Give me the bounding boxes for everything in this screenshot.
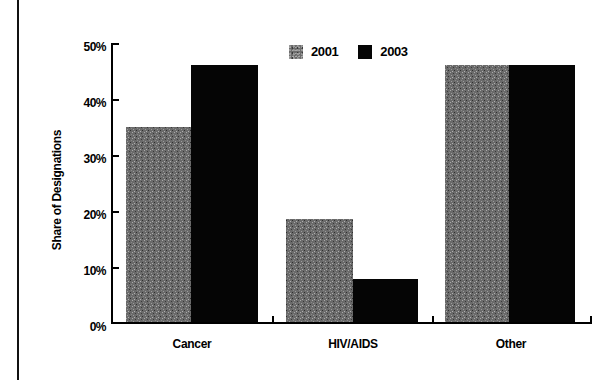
legend-swatch-2003-icon <box>358 45 372 59</box>
bar-chart: Share of Designations 50% 40% 30% 20% 10… <box>0 0 603 380</box>
chart-legend: 2001 2003 <box>289 44 428 59</box>
legend-label: 2003 <box>380 44 407 59</box>
legend-item-2003: 2003 <box>358 44 407 59</box>
legend-swatch-2001-icon <box>289 45 303 59</box>
bar-cancer-2001 <box>126 127 191 323</box>
bar-hiv-2001 <box>286 219 353 323</box>
bar-hiv-2003 <box>353 279 418 323</box>
x-tick-label-cancer: Cancer <box>132 337 252 351</box>
x-tick-label-other: Other <box>451 337 571 351</box>
bar-cancer-2003 <box>191 65 258 323</box>
legend-item-2001: 2001 <box>289 44 338 59</box>
x-tick-label-hiv-aids: HIV/AIDS <box>293 337 413 351</box>
legend-label: 2001 <box>311 44 338 59</box>
bar-other-2003 <box>509 65 575 323</box>
bar-other-2001 <box>445 65 509 323</box>
